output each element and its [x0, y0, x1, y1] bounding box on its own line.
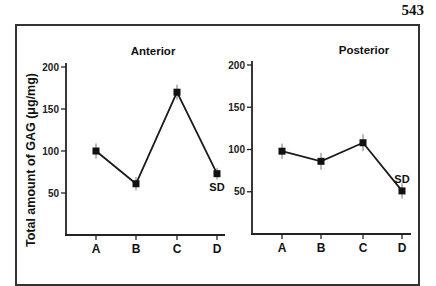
y-tick-label: 50 — [234, 186, 246, 197]
x-tick-label: C — [359, 241, 368, 255]
x-tick-label: A — [92, 242, 101, 256]
data-line — [96, 92, 217, 184]
data-point-marker — [174, 89, 181, 96]
data-line — [282, 143, 402, 191]
x-tick-label: D — [213, 242, 222, 256]
posterior-panel: Posterior50100150200ABCDSD — [228, 44, 411, 255]
y-tick-label: 100 — [228, 144, 245, 155]
data-point-marker — [399, 187, 406, 194]
x-tick-label: B — [317, 241, 326, 255]
x-tick-label: C — [173, 242, 182, 256]
x-tick-label: B — [132, 242, 141, 256]
x-tick-label: A — [278, 241, 287, 255]
y-tick-label: 200 — [42, 62, 59, 73]
y-tick-label: 50 — [48, 188, 60, 199]
y-tick-label: 150 — [42, 104, 59, 115]
data-point-marker — [360, 139, 367, 146]
data-point-marker — [318, 158, 325, 165]
y-tick-label: 150 — [228, 102, 245, 113]
y-tick-label: 100 — [42, 146, 59, 157]
panel-title: Anterior — [131, 45, 176, 57]
data-point-marker — [214, 170, 221, 177]
x-tick-label: D — [398, 241, 407, 255]
panel-title: Posterior — [339, 44, 390, 56]
data-point-marker — [279, 148, 286, 155]
sd-annotation: SD — [394, 173, 409, 185]
data-point-marker — [133, 180, 140, 187]
y-tick-label: 200 — [228, 60, 245, 71]
sd-annotation: SD — [209, 181, 224, 193]
anterior-panel: Anterior50100150200ABCDSD — [42, 45, 225, 256]
data-point-marker — [93, 148, 100, 155]
